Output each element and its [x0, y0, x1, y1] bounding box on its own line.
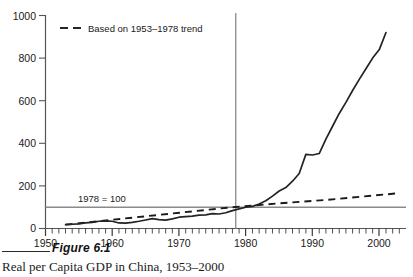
x-axis-minor-ticks: [52, 229, 399, 234]
y-tick-label: 0: [30, 222, 36, 234]
y-tick-label: 400: [18, 137, 36, 149]
caption-rule-row: Figure 6.1: [0, 240, 413, 256]
gdp-line-chart: 1000 800 600 400 200 0 1950 1960 1970 19…: [0, 0, 413, 277]
y-axis-ticks: [39, 16, 46, 229]
y-axis-tick-labels: 1000 800 600 400 200 0: [13, 10, 37, 235]
figure-number-label: Figure 6.1: [52, 241, 111, 255]
caption-rule: [2, 251, 50, 252]
y-tick-label: 600: [18, 95, 36, 107]
baseline-annotation: 1978 = 100: [78, 193, 126, 204]
y-tick-label: 1000: [13, 10, 37, 22]
figure-caption-block: Figure 6.1 Real per Capita GDP in China,…: [0, 240, 413, 256]
y-tick-label: 800: [18, 52, 36, 64]
legend-label-trend: Based on 1953–1978 trend: [88, 23, 203, 34]
figure-container: 1000 800 600 400 200 0 1950 1960 1970 19…: [0, 0, 413, 277]
chart-legend: Based on 1953–1978 trend: [60, 23, 203, 34]
figure-title: Real per Capita GDP in China, 1953–2000: [2, 259, 224, 275]
y-tick-label: 200: [18, 180, 36, 192]
